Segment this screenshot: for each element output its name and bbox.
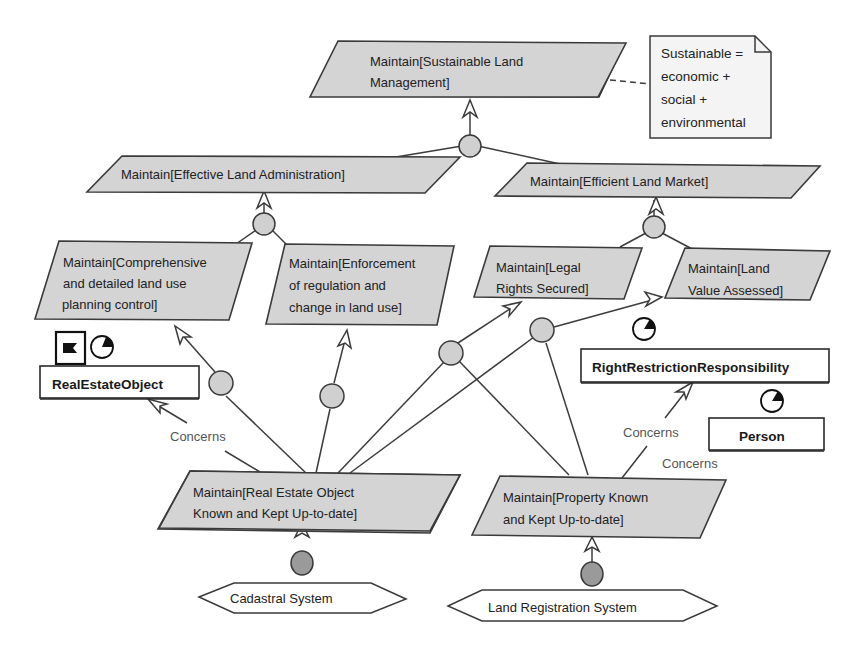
svg-text:economic +: economic + (661, 69, 731, 84)
goal-real-estate-object-kept-up-to-date[interactable]: Maintain[Real Estate Object Known and Ke… (158, 471, 460, 533)
entity-right-restriction-responsibility[interactable]: RightRestrictionResponsibility (581, 318, 829, 383)
refinement-node-g4[interactable] (209, 371, 233, 395)
svg-text:RealEstateObject: RealEstateObject (52, 377, 164, 392)
goal-property-kept-up-to-date[interactable]: Maintain[Property Known and Kept Up-to-d… (472, 476, 726, 538)
responsibility-node-a2[interactable] (581, 562, 603, 586)
goal-effective-land-administration[interactable]: Maintain[Effective Land Administration] (87, 156, 460, 193)
svg-text:social +: social + (661, 92, 707, 107)
goal-land-value-assessed[interactable]: Maintain[Land Value Assessed] (665, 248, 830, 300)
svg-text:Cadastral System: Cadastral System (230, 591, 333, 606)
svg-text:Maintain[Property Known: Maintain[Property Known (503, 490, 648, 505)
edge-ref-g6 (458, 305, 516, 343)
refinement-node-g1[interactable] (459, 135, 481, 157)
edge-g4-to-ref2 (236, 230, 256, 244)
edge-g3-to-ref1 (478, 146, 560, 164)
agent-land-registration-system[interactable]: Land Registration System (448, 590, 717, 621)
svg-text:Land Registration System: Land Registration System (488, 600, 637, 615)
svg-text:Maintain[Legal: Maintain[Legal (496, 260, 581, 275)
svg-text:Management]: Management] (370, 75, 450, 90)
arrowhead-g7 (645, 292, 662, 306)
goal-comprehensive-land-use-planning[interactable]: Maintain[Comprehensive and detailed land… (35, 241, 252, 320)
arrowhead-g3 (649, 197, 663, 214)
svg-text:Maintain[Efficient Land Market: Maintain[Efficient Land Market] (530, 174, 708, 189)
svg-text:Maintain[Land: Maintain[Land (688, 261, 770, 276)
svg-text:Maintain[Effective Land Admini: Maintain[Effective Land Administration] (121, 167, 345, 182)
svg-text:change in land use]: change in land use] (289, 300, 402, 315)
goal-legal-rights-secured[interactable]: Maintain[Legal Rights Secured] (474, 246, 642, 299)
responsibility-node-a1[interactable] (291, 551, 313, 575)
svg-text:Rights Secured]: Rights Secured] (496, 281, 589, 296)
svg-text:Maintain[Sustainable Land: Maintain[Sustainable Land (370, 54, 523, 69)
edge-g8-ref-g6 (338, 362, 444, 473)
goal-diagram: Maintain[Sustainable Land Management] Ma… (0, 0, 863, 660)
svg-text:environmental: environmental (661, 115, 746, 130)
concerns-label: Concerns (170, 429, 226, 444)
svg-text:Maintain[Enforcement: Maintain[Enforcement (289, 256, 416, 271)
edge-g6-to-ref3 (620, 233, 646, 247)
svg-text:of regulation and: of regulation and (289, 278, 386, 293)
arrowhead-g6 (503, 302, 521, 316)
svg-text:Maintain[Real Estate Object: Maintain[Real Estate Object (193, 485, 355, 500)
concerns-edge-1b (225, 451, 260, 472)
refinement-node-g3[interactable] (643, 216, 665, 238)
concerns-edge-2b (622, 446, 647, 478)
arrowhead-concerns-1 (148, 399, 167, 413)
entity-real-estate-object[interactable]: RealEstateObject (40, 332, 199, 399)
arrowhead-g5 (338, 330, 351, 348)
goal-efficient-land-market[interactable]: Maintain[Efficient Land Market] (495, 163, 820, 198)
svg-text:Person: Person (739, 429, 785, 444)
edge-g9-ref-g6 (459, 361, 569, 475)
refinement-node-g5[interactable] (320, 384, 344, 408)
refinement-node-g6[interactable] (439, 341, 463, 365)
goal-enforcement-of-regulation[interactable]: Maintain[Enforcement of regulation and c… (266, 244, 454, 325)
entity-person[interactable]: Person (709, 390, 824, 451)
svg-text:Maintain[Comprehensive: Maintain[Comprehensive (63, 255, 207, 270)
arrowhead-concerns-2 (676, 382, 693, 399)
refinement-node-g7[interactable] (530, 318, 554, 342)
concerns-label: Concerns (623, 425, 679, 440)
svg-text:Known and Kept Up-to-date]: Known and Kept Up-to-date] (193, 506, 357, 521)
svg-text:planning control]: planning control] (62, 297, 157, 312)
refinement-node-g2[interactable] (253, 213, 275, 235)
svg-text:and Kept Up-to-date]: and Kept Up-to-date] (503, 512, 624, 527)
annotation-note[interactable]: Sustainable = economic + social + enviro… (650, 36, 771, 138)
note-link (610, 80, 650, 84)
agent-cadastral-system[interactable]: Cadastral System (199, 583, 406, 613)
goal-sustainable-land-management[interactable]: Maintain[Sustainable Land Management] (310, 41, 626, 97)
svg-text:Sustainable =: Sustainable = (661, 46, 743, 61)
edge-g8-ref-g4 (226, 396, 306, 473)
concerns-label: Concerns (662, 456, 718, 471)
edge-g8-ref-g5 (316, 409, 330, 473)
svg-text:RightRestrictionResponsibility: RightRestrictionResponsibility (592, 360, 790, 375)
svg-text:and detailed land use: and detailed land use (63, 276, 187, 291)
svg-text:Value Assessed]: Value Assessed] (688, 283, 783, 298)
